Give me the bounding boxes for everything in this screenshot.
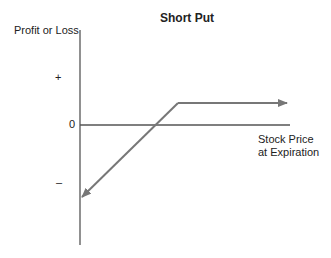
- payoff-slope: [82, 103, 178, 197]
- plot-area: [0, 0, 331, 258]
- chart: Short Put Profit or Loss + 0 – Stock Pri…: [0, 0, 331, 258]
